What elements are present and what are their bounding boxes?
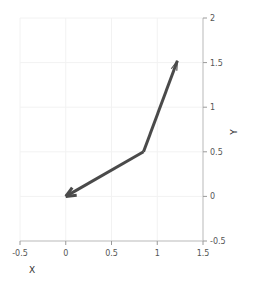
y-tick-label: 1 xyxy=(210,103,215,112)
axis-ticks xyxy=(20,18,207,245)
x-tick-label: 0 xyxy=(63,249,68,258)
y-axis-title: Y xyxy=(229,129,239,135)
x-tick-label: 1 xyxy=(155,249,160,258)
y-tick-label: 1.5 xyxy=(210,58,223,67)
figure: -0.500.511.5 -0.500.511.52 X Y xyxy=(0,0,256,281)
x-tick-label: -0.5 xyxy=(12,249,28,258)
y-tick-label: 0.5 xyxy=(210,147,223,156)
data-vectors xyxy=(66,61,178,197)
y-tick-label: 2 xyxy=(210,14,215,23)
y-tick-label: 0 xyxy=(210,192,215,201)
gridlines xyxy=(20,18,203,241)
x-axis-title: X xyxy=(29,265,35,275)
y-tick-label: -0.5 xyxy=(210,237,226,246)
x-tick-label: 1.5 xyxy=(197,249,210,258)
x-tick-label: 0.5 xyxy=(105,249,118,258)
